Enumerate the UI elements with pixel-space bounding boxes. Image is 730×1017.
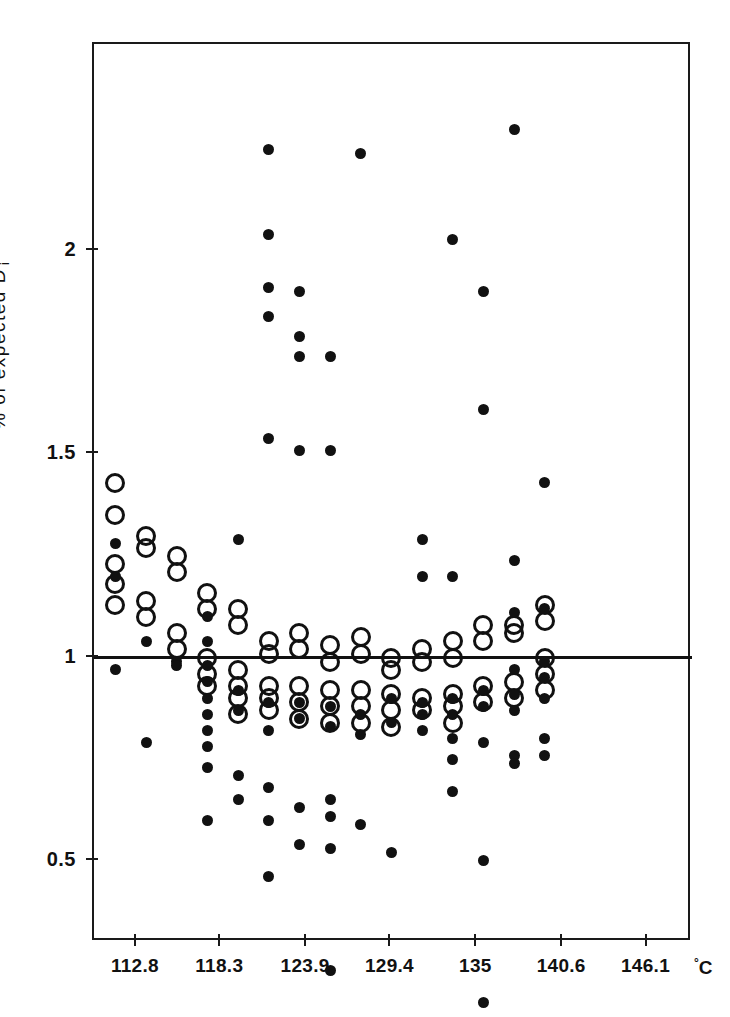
filled-dot <box>263 311 274 322</box>
filled-dot <box>202 762 213 773</box>
y-tick-label: 1.5 <box>0 442 76 462</box>
filled-dot <box>417 725 428 736</box>
open-circle <box>412 652 432 672</box>
filled-dot <box>294 286 305 297</box>
x-axis-unit-text: C <box>699 957 713 978</box>
filled-dot <box>263 815 274 826</box>
filled-dot <box>233 794 244 805</box>
filled-dot <box>263 725 274 736</box>
filled-dot <box>294 445 305 456</box>
filled-dot <box>478 286 489 297</box>
filled-dot <box>539 750 550 761</box>
scatter-chart-figure: 00.511.52 112.8118.3123.9129.4135140.614… <box>0 0 730 1017</box>
filled-dot <box>233 705 244 716</box>
filled-dot <box>202 741 213 752</box>
filled-dot <box>447 234 458 245</box>
filled-dot <box>478 997 489 1008</box>
x-axis-unit-label: °C <box>694 956 713 979</box>
filled-dot <box>202 636 213 647</box>
x-tick-mark <box>474 934 476 946</box>
y-axis-label-subscript: i <box>0 261 12 265</box>
filled-dot <box>447 733 458 744</box>
filled-dot <box>263 144 274 155</box>
open-circle <box>443 648 463 668</box>
filled-dot <box>233 534 244 545</box>
filled-dot <box>447 754 458 765</box>
x-tick-mark <box>134 934 136 946</box>
filled-dot <box>539 477 550 488</box>
y-axis-label: % of expected Di <box>0 130 10 430</box>
open-circle <box>105 595 125 615</box>
x-tick-mark <box>304 934 306 946</box>
filled-dot <box>141 737 152 748</box>
filled-dot <box>263 229 274 240</box>
open-circle <box>504 623 524 643</box>
filled-dot <box>539 733 550 744</box>
open-circle <box>320 652 340 672</box>
filled-dot <box>110 538 121 549</box>
filled-dot <box>509 689 520 700</box>
filled-dot <box>202 725 213 736</box>
filled-dot <box>325 351 336 362</box>
y-tick-label: 2 <box>0 239 76 259</box>
filled-dot <box>447 693 458 704</box>
filled-dot <box>325 843 336 854</box>
filled-dot <box>325 701 336 712</box>
filled-dot <box>509 758 520 769</box>
filled-dot <box>263 433 274 444</box>
filled-dot <box>294 839 305 850</box>
filled-dot <box>325 721 336 732</box>
filled-dot <box>202 693 213 704</box>
open-circle <box>167 562 187 582</box>
filled-dot <box>294 331 305 342</box>
filled-dot <box>202 709 213 720</box>
filled-dot <box>294 802 305 813</box>
open-circle <box>259 644 279 664</box>
filled-dot <box>171 660 182 671</box>
filled-dot <box>110 571 121 582</box>
y-tick-mark <box>86 451 98 453</box>
filled-dot <box>325 445 336 456</box>
filled-dot <box>233 685 244 696</box>
filled-dot <box>386 717 397 728</box>
x-tick-mark <box>645 934 647 946</box>
y-tick-mark <box>86 858 98 860</box>
filled-dot <box>478 701 489 712</box>
filled-dot <box>263 282 274 293</box>
open-circle <box>136 607 156 627</box>
filled-dot <box>263 871 274 882</box>
filled-dot <box>294 697 305 708</box>
filled-dot <box>478 404 489 415</box>
filled-dot <box>263 782 274 793</box>
filled-dot <box>478 685 489 696</box>
filled-dot <box>447 786 458 797</box>
x-tick-mark <box>560 934 562 946</box>
x-tick-label: 146.1 <box>596 956 696 975</box>
filled-dot <box>355 148 366 159</box>
filled-dot <box>509 555 520 566</box>
filled-dot <box>355 819 366 830</box>
open-circle <box>105 473 125 493</box>
filled-dot <box>509 607 520 618</box>
filled-dot <box>509 664 520 675</box>
x-tick-mark <box>388 934 390 946</box>
open-circle <box>381 660 401 680</box>
y-tick-label: 1 <box>0 646 76 666</box>
open-circle <box>473 631 493 651</box>
filled-dot <box>417 534 428 545</box>
filled-dot <box>417 697 428 708</box>
filled-dot <box>417 571 428 582</box>
y-tick-mark <box>86 248 98 250</box>
y-axis-label-text: % of expected D <box>0 268 9 430</box>
y-tick-label: 0.5 <box>0 849 76 869</box>
plot-area <box>92 42 690 940</box>
filled-dot <box>294 713 305 724</box>
filled-dot <box>509 705 520 716</box>
filled-dot <box>386 847 397 858</box>
open-circle <box>228 615 248 635</box>
filled-dot <box>294 351 305 362</box>
filled-dot <box>325 794 336 805</box>
filled-dot <box>233 770 244 781</box>
filled-dot <box>509 124 520 135</box>
open-circle <box>105 505 125 525</box>
